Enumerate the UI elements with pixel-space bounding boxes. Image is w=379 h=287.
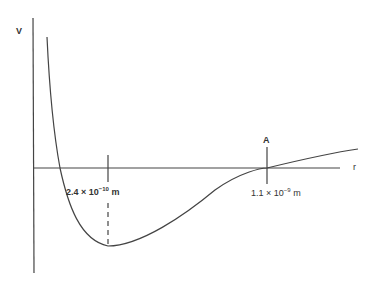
r-axis-label: r (353, 162, 356, 172)
point-a-label: A (263, 135, 270, 145)
point-a-unit: m (293, 188, 301, 198)
potential-curve (47, 37, 358, 246)
equilibrium-exponent: −10 (99, 186, 109, 192)
point-a-exponent: −9 (284, 187, 291, 193)
equilibrium-mantissa: 2.4 × 10 (66, 187, 99, 197)
v-axis-label: V (16, 26, 22, 36)
point-a-mantissa: 1.1 × 10 (251, 188, 284, 198)
equilibrium-label: 2.4 × 10−10 m (66, 186, 120, 197)
equilibrium-unit: m (111, 187, 119, 197)
point-a-value-label: 1.1 × 10−9 m (251, 187, 301, 198)
v-axis (33, 18, 34, 273)
potential-curve-diagram (0, 0, 379, 287)
